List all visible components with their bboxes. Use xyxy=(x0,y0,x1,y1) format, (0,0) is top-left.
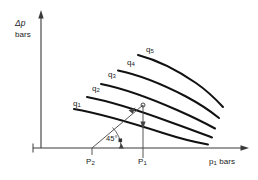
pressure-drop-diagram: Δp bars q1 q2 q3 q4 q5 45° P2 P1 p1 bars xyxy=(0,0,258,180)
curve-label-q4-subscript: 4 xyxy=(132,61,135,67)
axis-point-p1-subscript: 1 xyxy=(143,160,146,166)
curve-label-q1: q1 xyxy=(73,100,81,109)
curve-label-q4: q4 xyxy=(127,59,135,68)
curve-label-q5: q5 xyxy=(146,46,154,55)
angle-45-arc-arrowhead xyxy=(119,143,124,148)
y-axis-symbol-label: Δp xyxy=(15,19,26,28)
curve-label-q2-subscript: 2 xyxy=(97,87,100,93)
curve-label-q3: q3 xyxy=(108,71,116,80)
x-axis-unit-text: bars xyxy=(219,157,235,166)
curve-label-q5-subscript: 5 xyxy=(151,48,154,54)
axis-point-p2-subscript: 2 xyxy=(91,160,94,166)
x-axis-label: p1 bars xyxy=(209,158,235,167)
right-angle-marker xyxy=(119,139,123,143)
y-axis-unit-label: bars xyxy=(15,31,31,39)
curve-q3 xyxy=(101,84,215,129)
x-axis-arrowhead xyxy=(241,145,250,150)
axis-point-label-p2: P2 xyxy=(86,158,95,167)
y-axis xyxy=(38,10,43,148)
y-axis-arrowhead xyxy=(38,10,43,19)
angle-45-label: 45° xyxy=(106,135,118,143)
curve-group xyxy=(74,55,223,145)
axis-point-label-p1: P1 xyxy=(138,158,147,167)
diagram-canvas xyxy=(0,0,258,180)
curve-label-q2: q2 xyxy=(92,85,100,94)
x-axis xyxy=(33,144,249,153)
curve-label-q1-subscript: 1 xyxy=(78,102,81,108)
curve-label-q3-subscript: 3 xyxy=(113,73,116,79)
